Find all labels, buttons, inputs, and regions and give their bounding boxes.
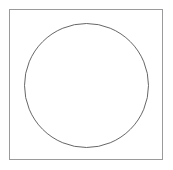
square-outline [10,10,163,160]
figure-canvas [0,0,173,170]
circle-outline [25,24,149,148]
shape-diagram [0,0,173,170]
